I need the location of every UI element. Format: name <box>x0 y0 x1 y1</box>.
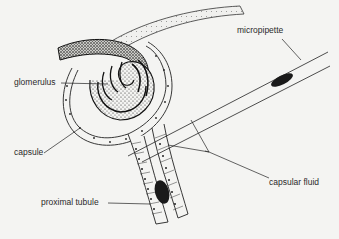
label-capsular-fluid: capsular fluid <box>269 178 319 187</box>
label-capsule: capsule <box>14 148 43 157</box>
efferent-arteriole <box>110 6 244 50</box>
label-proximal-tubule: proximal tubule <box>41 198 99 207</box>
proximal-tubule <box>128 124 188 224</box>
label-glomerulus: glomerulus <box>14 78 56 87</box>
glomerular-loops <box>90 60 154 120</box>
label-micropipette: micropipette <box>237 26 283 35</box>
